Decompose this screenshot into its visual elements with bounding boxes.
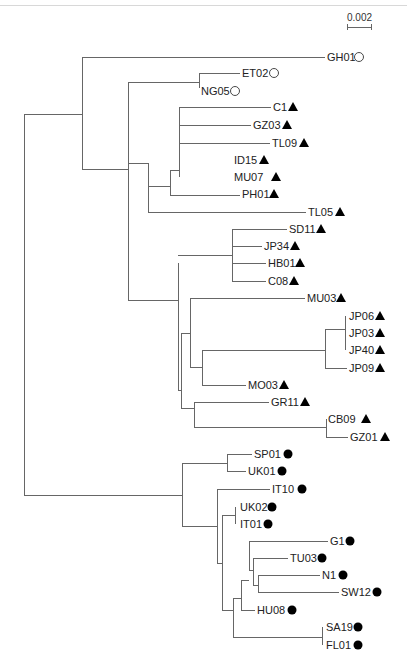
- leaf-c1: C1: [273, 101, 298, 113]
- leaf-label: IT01: [240, 518, 262, 530]
- leaf-label: SW12: [341, 586, 371, 598]
- leaf-jp03: JP03: [349, 327, 385, 339]
- leaf-jp09: JP09: [349, 362, 385, 374]
- leaf-label: HB01: [268, 257, 296, 269]
- filled-circle-icon: [339, 571, 348, 580]
- filled-circle-icon: [298, 485, 307, 494]
- leaf-mu03: MU03: [307, 292, 346, 304]
- tree-leaves: GH01ET02NG05C1GZ03TL09ID15MU07PH01TL05SD…: [201, 51, 390, 651]
- leaf-sw12: SW12: [341, 586, 382, 598]
- leaf-gr11: GR11: [271, 396, 310, 408]
- leaf-label: TL05: [308, 206, 333, 218]
- filled-circle-icon: [288, 606, 297, 615]
- leaf-et02: ET02: [242, 67, 279, 79]
- leaf-it01: IT01: [240, 518, 273, 530]
- leaf-jp40: JP40: [349, 344, 385, 356]
- filled-circle-icon: [278, 467, 287, 476]
- leaf-label: MU03: [307, 292, 336, 304]
- filled-triangle-icon: [361, 414, 371, 423]
- filled-triangle-icon: [271, 172, 281, 181]
- filled-circle-icon: [318, 554, 327, 563]
- leaf-tl09: TL09: [272, 137, 309, 149]
- leaf-label: JP40: [349, 344, 374, 356]
- open-circle-icon: [270, 69, 279, 78]
- leaf-uk02: UK02: [240, 501, 277, 513]
- leaf-tl05: TL05: [308, 206, 345, 218]
- leaf-hb01: HB01: [268, 257, 305, 269]
- filled-triangle-icon: [269, 189, 279, 198]
- leaf-label: N1: [322, 569, 336, 581]
- filled-triangle-icon: [336, 293, 346, 302]
- leaf-label: C1: [273, 101, 287, 113]
- leaf-jp06: JP06: [349, 310, 385, 322]
- filled-triangle-icon: [259, 155, 269, 164]
- leaf-label: TL09: [272, 137, 297, 149]
- filled-circle-icon: [373, 588, 382, 597]
- filled-circle-icon: [354, 623, 363, 632]
- leaf-label: FL01: [326, 639, 351, 651]
- leaf-label: PH01: [242, 188, 270, 200]
- filled-circle-icon: [264, 520, 273, 529]
- filled-triangle-icon: [316, 224, 326, 233]
- leaf-hu08: HU08: [257, 604, 297, 616]
- leaf-cb09: CB09: [328, 413, 371, 425]
- leaf-label: JP03: [349, 327, 374, 339]
- leaf-label: UK01: [248, 465, 276, 477]
- scale-bar-label: 0.002: [347, 12, 372, 23]
- leaf-gz01: GZ01: [350, 431, 390, 443]
- leaf-it10: IT10: [272, 483, 307, 495]
- leaf-label: JP34: [264, 240, 289, 252]
- filled-triangle-icon: [282, 120, 292, 129]
- filled-triangle-icon: [299, 138, 309, 147]
- filled-triangle-icon: [375, 363, 385, 372]
- leaf-label: ET02: [242, 67, 268, 79]
- leaf-label: GH01: [327, 51, 356, 63]
- filled-circle-icon: [354, 641, 363, 650]
- leaf-uk01: UK01: [248, 465, 287, 477]
- leaf-gz03: GZ03: [253, 119, 292, 131]
- leaf-label: SD11: [289, 223, 316, 235]
- open-circle-icon: [355, 53, 364, 62]
- leaf-label: G1: [330, 535, 345, 547]
- leaf-label: C08: [268, 275, 288, 287]
- filled-triangle-icon: [295, 258, 305, 267]
- leaf-ph01: PH01: [242, 188, 279, 200]
- phylogenetic-tree: 0.002: [0, 0, 407, 666]
- scale-bar: 0.002: [347, 12, 372, 30]
- filled-triangle-icon: [290, 241, 300, 250]
- leaf-id15: ID15: [234, 154, 269, 166]
- filled-triangle-icon: [288, 102, 298, 111]
- leaf-fl01: FL01: [326, 639, 363, 651]
- leaf-label: ID15: [234, 154, 257, 166]
- filled-circle-icon: [268, 503, 277, 512]
- filled-triangle-icon: [300, 397, 310, 406]
- leaf-label: UK02: [240, 501, 268, 513]
- filled-triangle-icon: [289, 276, 299, 285]
- leaf-label: NG05: [201, 85, 230, 97]
- leaf-ng05: NG05: [201, 85, 240, 97]
- leaf-label: TU03: [290, 552, 317, 564]
- filled-circle-icon: [284, 450, 293, 459]
- filled-triangle-icon: [375, 345, 385, 354]
- leaf-label: SP01: [254, 448, 281, 460]
- leaf-label: MO03: [248, 379, 278, 391]
- leaf-label: JP09: [349, 362, 374, 374]
- leaf-gh01: GH01: [327, 51, 364, 63]
- leaf-label: GZ01: [350, 431, 378, 443]
- leaf-label: SA19: [326, 621, 353, 633]
- filled-triangle-icon: [279, 380, 289, 389]
- leaf-label: IT10: [272, 483, 294, 495]
- leaf-label: HU08: [257, 604, 285, 616]
- leaf-mo03: MO03: [248, 379, 289, 391]
- leaf-label: GZ03: [253, 119, 281, 131]
- open-circle-icon: [231, 87, 240, 96]
- leaf-jp34: JP34: [264, 240, 300, 252]
- filled-circle-icon: [346, 537, 355, 546]
- leaf-c08: C08: [268, 275, 299, 287]
- filled-triangle-icon: [380, 432, 390, 441]
- leaf-label: GR11: [271, 396, 299, 408]
- leaf-sd11: SD11: [289, 223, 326, 235]
- leaf-n1: N1: [322, 569, 348, 581]
- leaf-sa19: SA19: [326, 621, 363, 633]
- filled-triangle-icon: [375, 328, 385, 337]
